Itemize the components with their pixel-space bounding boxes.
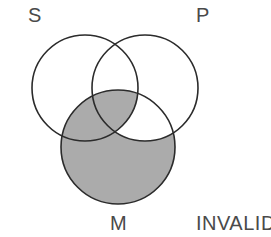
circle-label-p: P bbox=[196, 4, 210, 27]
venn-diagram bbox=[0, 0, 271, 237]
venn-diagram-svg bbox=[0, 0, 271, 237]
circle-label-m: M bbox=[110, 212, 127, 235]
validity-verdict-label: INVALID bbox=[196, 212, 271, 235]
circle-label-s: S bbox=[28, 4, 42, 27]
